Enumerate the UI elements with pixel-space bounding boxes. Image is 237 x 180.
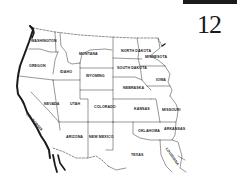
- label-montana: MONTANA: [79, 52, 98, 56]
- mexico-border: [53, 148, 108, 166]
- label-oklahoma: OKLAHOMA: [138, 129, 160, 133]
- pacific-coastline: [17, 26, 50, 158]
- baja-coast-2: [58, 155, 65, 170]
- label-south-dakota: SOUTH DAKOTA: [117, 66, 147, 70]
- label-missouri: MISSOURI: [162, 108, 181, 112]
- label-nevada: NEVADA: [44, 102, 60, 106]
- baja-coast: [53, 155, 57, 172]
- label-nebraska: NEBRASKA: [123, 86, 144, 90]
- label-washington: WASHINGTON: [31, 39, 57, 43]
- label-utah: UTAH: [70, 102, 80, 106]
- label-iowa: IOWA: [156, 78, 166, 82]
- us-west-outline-map: [0, 0, 237, 180]
- label-arizona: ARIZONA: [66, 135, 83, 139]
- label-kansas: KANSAS: [134, 107, 150, 111]
- canada-border: [33, 28, 162, 46]
- label-arkansas: ARKANSAS: [164, 127, 185, 131]
- label-colorado: COLORADO: [94, 105, 116, 109]
- label-wyoming: WYOMING: [86, 74, 105, 78]
- label-oregon: OREGON: [29, 64, 46, 68]
- label-idaho: IDAHO: [60, 70, 72, 74]
- label-new-mexico: NEW MEXICO: [89, 135, 114, 139]
- label-north-dakota: NORTH DAKOTA: [121, 49, 151, 53]
- label-texas: TEXAS: [131, 153, 143, 157]
- label-minnesota: MINNESOTA: [145, 55, 167, 59]
